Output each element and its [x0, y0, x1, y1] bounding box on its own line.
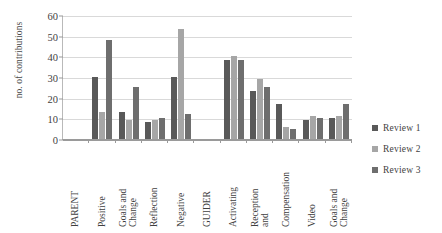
bar [178, 29, 184, 139]
bar-group [221, 16, 247, 139]
bar [250, 91, 256, 139]
x-axis-label-cell: Video [299, 143, 325, 231]
bar [126, 120, 132, 139]
x-axis-label: GUIDER [202, 143, 212, 227]
bar [152, 120, 158, 139]
bar [133, 87, 139, 139]
x-axis-label-cell: Positive [88, 143, 114, 231]
bar-group [89, 16, 115, 139]
plot-area: 0102030405060 [62, 16, 352, 140]
x-axis-label: Reception and [250, 143, 270, 227]
x-axis-label: Goals and Change [118, 143, 138, 227]
x-axis-label: Video [307, 143, 317, 227]
bar [231, 56, 237, 139]
gridline [63, 140, 352, 141]
bar-group [168, 16, 194, 139]
x-axis-label-cell: Goals and Change [115, 143, 141, 231]
legend-label: Review 1 [383, 123, 421, 133]
y-axis-tick-label: 0 [53, 135, 58, 146]
legend-item[interactable]: Review 3 [372, 159, 421, 180]
x-axis-label-cell: PARENT [62, 143, 88, 231]
legend-swatch-icon [372, 125, 378, 131]
chart-legend: Review 1Review 2Review 3 [372, 117, 421, 180]
bar [276, 104, 282, 139]
bar [224, 60, 230, 139]
bar-groups [63, 16, 352, 139]
y-axis-tick-label: 10 [48, 114, 59, 125]
bar [92, 77, 98, 139]
bar [343, 104, 349, 139]
x-axis-label-cell: Negative [167, 143, 193, 231]
x-axis-label-cell: GUIDER [194, 143, 220, 231]
bar [336, 116, 342, 139]
bar [238, 60, 244, 139]
x-axis-label: Negative [176, 143, 186, 227]
y-axis-title: no. of contributions [14, 5, 24, 115]
x-axis-label-cell: Goals and Change [326, 143, 352, 231]
x-axis-label: Goals and Change [329, 143, 349, 227]
x-axis-label: Positive [97, 143, 107, 227]
x-axis-label: Compensation [281, 143, 291, 227]
bar [159, 118, 165, 139]
bar [329, 118, 335, 139]
bar [303, 120, 309, 139]
bar [171, 77, 177, 139]
bar [119, 112, 125, 139]
bar-group [142, 16, 168, 139]
bar-group [63, 16, 89, 139]
legend-item[interactable]: Review 1 [372, 117, 421, 138]
legend-swatch-icon [372, 146, 378, 152]
chart-container: no. of contributions 0102030405060 PAREN… [0, 0, 442, 233]
x-axis-label: Reflection [149, 143, 159, 227]
bar-group [326, 16, 352, 139]
bar-group [116, 16, 142, 139]
x-axis-label-cell: Compensation [273, 143, 299, 231]
legend-swatch-icon [372, 167, 378, 173]
x-axis-label-cell: Activating [220, 143, 246, 231]
x-axis-labels: PARENTPositiveGoals and ChangeReflection… [62, 143, 352, 231]
legend-item[interactable]: Review 2 [372, 138, 421, 159]
y-axis-tick-label: 40 [48, 52, 59, 63]
bar [317, 118, 323, 139]
x-axis-label: Activating [228, 143, 238, 227]
bar [283, 127, 289, 139]
x-axis-label: PARENT [70, 143, 80, 227]
y-axis-tick [59, 140, 63, 141]
bar [264, 87, 270, 139]
x-axis-label-cell: Reflection [141, 143, 167, 231]
y-axis-tick-label: 30 [48, 73, 59, 84]
bar [145, 122, 151, 139]
y-axis-tick-label: 60 [48, 11, 59, 22]
x-axis-label-cell: Reception and [247, 143, 273, 231]
bar [290, 129, 296, 139]
legend-label: Review 2 [383, 144, 421, 154]
bar [310, 116, 316, 139]
bar-group [273, 16, 299, 139]
bar [257, 79, 263, 139]
bar-group [247, 16, 273, 139]
bar [106, 40, 112, 139]
bar [185, 114, 191, 139]
y-axis-tick-label: 50 [48, 31, 59, 42]
bar-group [194, 16, 220, 139]
legend-label: Review 3 [383, 165, 421, 175]
bar-group [299, 16, 325, 139]
y-axis-tick-label: 20 [48, 93, 59, 104]
bar [99, 112, 105, 139]
